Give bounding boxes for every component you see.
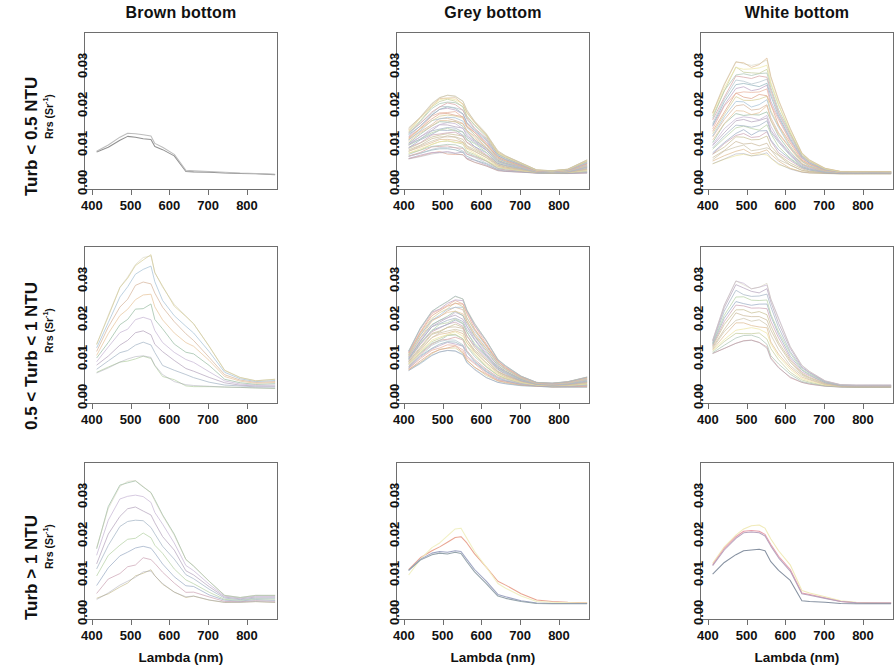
y-axis-label-r2c1: Rrs (Sr-1): [42, 308, 55, 353]
spectra-lines-r1c1: [85, 33, 278, 190]
x-tick-label-700-r3c2: 700: [498, 628, 542, 643]
x-tick-label-800-r2c1: 800: [225, 412, 269, 427]
y-tick-label-0.03-r2c3: 0.03: [691, 267, 706, 292]
y-tick-label-0.01-r1c1: 0.01: [75, 131, 90, 156]
plot-frame-r3c3: [700, 462, 894, 620]
y-tick-label-0.01-r3c2: 0.01: [387, 561, 402, 586]
y-tick-label-0.02-r3c1: 0.02: [75, 522, 90, 547]
x-tick-label-500-r1c2: 500: [421, 198, 465, 213]
y-tick-label-0.01-r3c1: 0.01: [75, 561, 90, 586]
y-tick-label-0.01-r2c2: 0.01: [387, 345, 402, 370]
y-tick-label-0.00-r2c1: 0.00: [75, 384, 90, 409]
y-tick-label-0.00-r2c2: 0.00: [387, 384, 402, 409]
x-tick-600-r1c2: [481, 190, 482, 195]
x-tick-800-r1c3: [863, 190, 864, 195]
x-tick-label-700-r2c3: 700: [802, 412, 846, 427]
x-tick-label-500-r2c2: 500: [421, 412, 465, 427]
x-tick-700-r1c2: [520, 190, 521, 195]
x-tick-400-r1c2: [404, 190, 405, 195]
x-tick-label-400-r3c2: 400: [382, 628, 426, 643]
x-tick-700-r2c2: [520, 404, 521, 409]
x-tick-700-r3c2: [520, 620, 521, 625]
y-tick-label-0.03-r1c1: 0.03: [75, 53, 90, 78]
x-tick-400-r2c2: [404, 404, 405, 409]
x-tick-label-700-r3c1: 700: [186, 628, 230, 643]
y-tick-label-0.00-r1c1: 0.00: [75, 170, 90, 195]
x-tick-400-r2c1: [92, 404, 93, 409]
spectra-lines-r3c2: [397, 463, 590, 620]
plot-frame-r2c2: [396, 246, 590, 404]
x-tick-label-600-r1c2: 600: [459, 198, 503, 213]
x-tick-label-600-r3c3: 600: [763, 628, 807, 643]
y-tick-label-0.02-r3c3: 0.02: [691, 522, 706, 547]
y-tick-label-0.02-r1c3: 0.02: [691, 92, 706, 117]
y-tick-label-0.02-r3c2: 0.02: [387, 522, 402, 547]
column-title-white: White bottom: [700, 4, 894, 22]
y-tick-label-0.03-r3c1: 0.03: [75, 483, 90, 508]
x-tick-label-800-r2c3: 800: [841, 412, 885, 427]
x-tick-label-700-r1c3: 700: [802, 198, 846, 213]
x-tick-label-400-r1c2: 400: [382, 198, 426, 213]
x-tick-800-r1c1: [247, 190, 248, 195]
x-tick-600-r3c2: [481, 620, 482, 625]
plot-frame-r2c1: [84, 246, 278, 404]
x-tick-label-400-r2c2: 400: [382, 412, 426, 427]
y-axis-label-r1c1: Rrs (Sr-1): [42, 94, 55, 139]
spectra-lines-r2c1: [85, 247, 278, 404]
spectra-lines-r1c2: [397, 33, 590, 190]
x-tick-500-r2c1: [131, 404, 132, 409]
x-tick-400-r3c3: [708, 620, 709, 625]
x-tick-700-r3c1: [208, 620, 209, 625]
y-axis-label-r3c1: Rrs (Sr-1): [42, 524, 55, 569]
y-tick-label-0.01-r2c3: 0.01: [691, 345, 706, 370]
row-title-turb-mid: 0.5 < Turb < 1 NTU: [22, 282, 42, 430]
x-tick-600-r3c3: [785, 620, 786, 625]
row-title-turb-low: Turb < 0.5 NTU: [22, 77, 42, 196]
x-tick-label-500-r2c3: 500: [725, 412, 769, 427]
spectra-lines-r2c2: [397, 247, 590, 404]
x-tick-label-800-r1c1: 800: [225, 198, 269, 213]
x-tick-label-600-r1c3: 600: [763, 198, 807, 213]
x-axis-label-r3c3: Lambda (nm): [700, 650, 894, 665]
x-tick-600-r2c2: [481, 404, 482, 409]
x-tick-500-r2c2: [443, 404, 444, 409]
x-tick-500-r1c1: [131, 190, 132, 195]
y-tick-label-0.03-r1c2: 0.03: [387, 53, 402, 78]
x-tick-label-800-r2c2: 800: [537, 412, 581, 427]
x-tick-500-r3c1: [131, 620, 132, 625]
x-tick-label-700-r1c1: 700: [186, 198, 230, 213]
x-tick-label-800-r3c2: 800: [537, 628, 581, 643]
x-tick-600-r3c1: [169, 620, 170, 625]
column-title-grey: Grey bottom: [396, 4, 590, 22]
x-tick-800-r1c2: [559, 190, 560, 195]
x-tick-label-800-r3c1: 800: [225, 628, 269, 643]
y-tick-label-0.03-r3c3: 0.03: [691, 483, 706, 508]
x-tick-700-r1c3: [824, 190, 825, 195]
x-tick-label-500-r1c1: 500: [109, 198, 153, 213]
x-tick-800-r3c3: [863, 620, 864, 625]
x-tick-400-r2c3: [708, 404, 709, 409]
x-tick-label-600-r1c1: 600: [147, 198, 191, 213]
x-tick-400-r3c2: [404, 620, 405, 625]
x-tick-800-r3c2: [559, 620, 560, 625]
y-tick-label-0.01-r2c1: 0.01: [75, 345, 90, 370]
y-tick-label-0.01-r1c3: 0.01: [691, 131, 706, 156]
plot-frame-r1c1: [84, 32, 278, 190]
plot-frame-r1c3: [700, 32, 894, 190]
x-tick-label-500-r3c1: 500: [109, 628, 153, 643]
x-tick-label-400-r1c3: 400: [686, 198, 730, 213]
x-tick-600-r2c1: [169, 404, 170, 409]
x-tick-700-r3c3: [824, 620, 825, 625]
y-tick-label-0.00-r3c3: 0.00: [691, 600, 706, 625]
column-title-brown: Brown bottom: [84, 4, 278, 22]
x-tick-label-700-r2c2: 700: [498, 412, 542, 427]
x-tick-600-r1c3: [785, 190, 786, 195]
x-tick-label-400-r1c1: 400: [70, 198, 114, 213]
x-tick-800-r2c3: [863, 404, 864, 409]
x-tick-label-400-r2c3: 400: [686, 412, 730, 427]
y-tick-label-0.00-r2c3: 0.00: [691, 384, 706, 409]
y-tick-label-0.01-r3c3: 0.01: [691, 561, 706, 586]
x-tick-700-r2c3: [824, 404, 825, 409]
x-tick-label-700-r3c3: 700: [802, 628, 846, 643]
